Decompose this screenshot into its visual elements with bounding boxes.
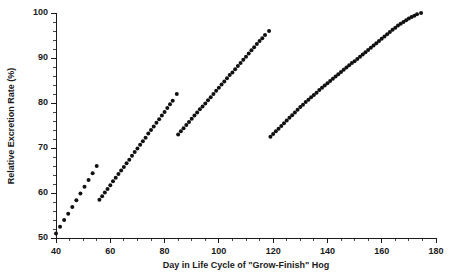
data-point bbox=[233, 67, 237, 71]
y-tick-label: 100 bbox=[33, 7, 48, 17]
data-point bbox=[252, 45, 256, 49]
y-axis-title: Relative Excretion Rate (%) bbox=[6, 68, 16, 185]
data-point bbox=[144, 136, 148, 140]
data-point bbox=[100, 194, 104, 198]
data-point bbox=[108, 183, 112, 187]
data-point bbox=[78, 191, 82, 195]
data-point bbox=[214, 89, 218, 93]
scatter-plot: 5060708090100406080100120140160180 Day i… bbox=[0, 0, 454, 276]
data-point bbox=[87, 178, 91, 182]
data-point bbox=[74, 198, 78, 202]
data-point bbox=[149, 128, 153, 132]
data-point bbox=[220, 83, 224, 87]
data-point bbox=[184, 123, 188, 127]
data-point bbox=[138, 143, 142, 147]
data-point bbox=[54, 232, 58, 236]
data-point bbox=[130, 154, 134, 158]
data-point bbox=[247, 52, 251, 56]
data-point bbox=[116, 172, 120, 176]
data-point bbox=[222, 79, 226, 83]
data-point bbox=[141, 139, 145, 143]
data-point bbox=[83, 185, 87, 189]
data-point bbox=[203, 101, 207, 105]
x-tick-label: 120 bbox=[266, 246, 281, 256]
data-point bbox=[244, 55, 248, 59]
data-point bbox=[58, 225, 62, 229]
data-points bbox=[54, 11, 423, 236]
data-point bbox=[179, 129, 183, 133]
data-series bbox=[268, 11, 423, 139]
data-point bbox=[127, 158, 131, 162]
data-point bbox=[195, 110, 199, 114]
data-series bbox=[176, 29, 271, 137]
data-point bbox=[133, 150, 137, 154]
data-point bbox=[419, 11, 423, 15]
data-point bbox=[187, 120, 191, 124]
axes bbox=[56, 13, 436, 238]
data-point bbox=[119, 169, 123, 173]
data-point bbox=[190, 117, 194, 121]
data-point bbox=[114, 176, 118, 180]
data-point bbox=[241, 58, 245, 62]
data-point bbox=[163, 110, 167, 114]
data-point bbox=[255, 42, 259, 46]
y-tick-label: 90 bbox=[38, 52, 48, 62]
data-point bbox=[201, 105, 205, 109]
chart-figure: 5060708090100406080100120140160180 Day i… bbox=[0, 0, 454, 276]
data-point bbox=[260, 36, 264, 40]
data-point bbox=[217, 86, 221, 90]
x-tick-label: 140 bbox=[320, 246, 335, 256]
data-point bbox=[135, 146, 139, 150]
y-tick-label: 50 bbox=[38, 232, 48, 242]
data-point bbox=[209, 95, 213, 99]
x-tick-label: 80 bbox=[160, 246, 170, 256]
data-point bbox=[62, 218, 66, 222]
y-tick-label: 60 bbox=[38, 187, 48, 197]
y-tick-label: 70 bbox=[38, 142, 48, 152]
x-tick-label: 100 bbox=[211, 246, 226, 256]
axis-tick-labels: 5060708090100406080100120140160180 bbox=[33, 7, 444, 256]
data-point bbox=[176, 133, 180, 137]
data-point bbox=[175, 92, 179, 96]
data-point bbox=[125, 161, 129, 165]
x-tick-label: 160 bbox=[374, 246, 389, 256]
x-tick-label: 40 bbox=[51, 246, 61, 256]
data-point bbox=[165, 106, 169, 110]
data-series bbox=[97, 92, 178, 202]
x-tick-label: 180 bbox=[428, 246, 443, 256]
data-point bbox=[95, 164, 99, 168]
data-point bbox=[152, 124, 156, 128]
data-point bbox=[415, 12, 419, 16]
data-point bbox=[97, 198, 101, 202]
data-point bbox=[103, 191, 107, 195]
data-point bbox=[122, 165, 126, 169]
axis-ticks bbox=[51, 13, 436, 243]
x-axis-title: Day in Life Cycle of "Grow-Finish" Hog bbox=[163, 260, 330, 270]
data-point bbox=[263, 33, 267, 37]
data-point bbox=[66, 212, 70, 216]
data-point bbox=[230, 70, 234, 74]
data-point bbox=[157, 117, 161, 121]
data-point bbox=[91, 171, 95, 175]
data-point bbox=[239, 61, 243, 65]
data-point bbox=[211, 92, 215, 96]
data-point bbox=[236, 64, 240, 68]
data-point bbox=[160, 114, 164, 118]
y-tick-label: 80 bbox=[38, 97, 48, 107]
data-point bbox=[168, 102, 172, 106]
x-tick-label: 60 bbox=[105, 246, 115, 256]
data-point bbox=[225, 76, 229, 80]
data-point bbox=[171, 99, 175, 103]
data-point bbox=[182, 126, 186, 130]
data-series bbox=[54, 164, 99, 236]
data-point bbox=[192, 114, 196, 118]
data-point bbox=[249, 48, 253, 52]
data-point bbox=[111, 179, 115, 183]
data-point bbox=[106, 187, 110, 191]
data-point bbox=[267, 29, 271, 33]
data-point bbox=[206, 98, 210, 102]
data-point bbox=[154, 121, 158, 125]
data-point bbox=[70, 205, 74, 209]
data-point bbox=[146, 132, 150, 136]
